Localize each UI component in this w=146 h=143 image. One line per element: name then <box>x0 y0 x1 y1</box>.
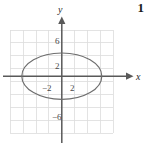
figure-number: 1 <box>138 1 145 14</box>
x-tick-label-2: 2 <box>70 84 75 93</box>
coordinate-plane-graphic <box>0 0 146 143</box>
x-tick-label-neg2: −2 <box>42 84 52 93</box>
y-tick-label-neg6: −6 <box>52 113 62 122</box>
y-tick-label-2: 2 <box>55 62 60 71</box>
x-axis-label: x <box>136 72 140 82</box>
y-tick-label-6: 6 <box>55 37 60 46</box>
y-axis-label: y <box>58 5 62 15</box>
graph-figure: y x 6 2 −6 −2 2 1 <box>0 0 146 143</box>
